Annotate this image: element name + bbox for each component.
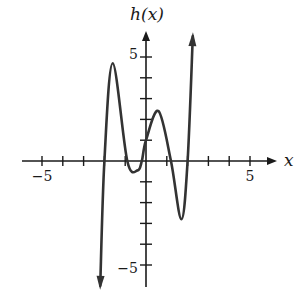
x-axis-label: x: [284, 150, 294, 170]
y-axis-label: h(x): [130, 4, 164, 24]
axes: [22, 36, 272, 287]
x-tick-label-5: 5: [246, 168, 255, 184]
y-tick-label-5: 5: [129, 46, 138, 62]
function-graph: h(x) x −5 5 5 −5: [0, 0, 306, 303]
x-tick-label-neg5: −5: [32, 168, 53, 184]
y-tick-label-neg5: −5: [117, 260, 138, 276]
